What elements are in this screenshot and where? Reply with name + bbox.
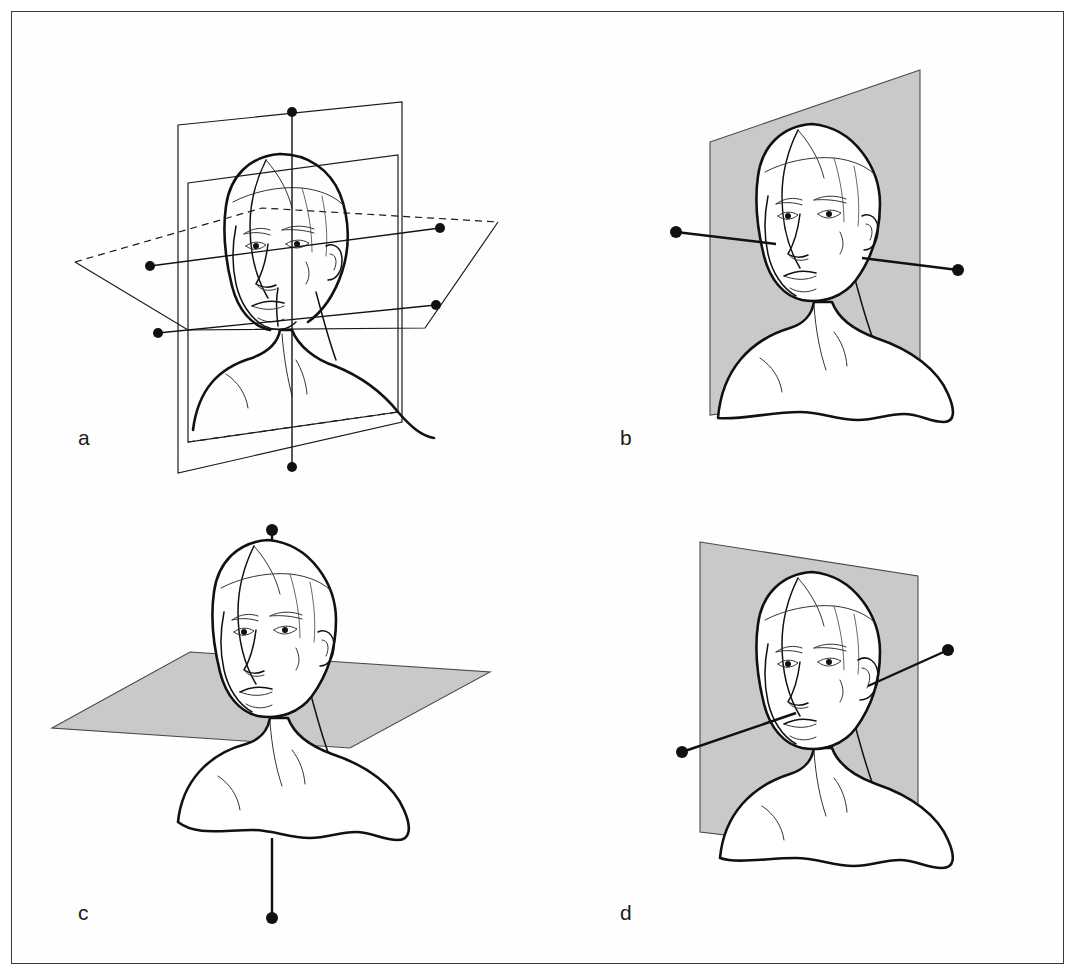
panel-b (600, 40, 1050, 480)
coronal-plane-a (178, 102, 402, 473)
axis-endpoint-dot (266, 524, 278, 536)
panel-d (600, 510, 1050, 950)
panel-b-drawing (600, 40, 1050, 480)
panel-c-drawing (30, 500, 550, 950)
vertical-axis-a (287, 107, 297, 472)
axis-endpoint-dot (435, 223, 445, 233)
axis-endpoint-dot (676, 746, 688, 758)
sagittal-plane-a (188, 155, 398, 442)
axis-endpoint-dot (431, 300, 441, 310)
axis-endpoint-dot (266, 912, 278, 924)
axis-endpoint-dot (942, 644, 954, 656)
vertical-axis-c-bottom (266, 838, 278, 924)
axis-endpoint-dot (287, 462, 297, 472)
panel-a-drawing (30, 30, 550, 480)
panel-label-a: a (78, 427, 90, 448)
panel-a (30, 30, 550, 480)
panel-label-b: b (620, 427, 632, 448)
axis-endpoint-dot (153, 328, 163, 338)
axis-endpoint-dot (145, 261, 155, 271)
panel-label-d: d (620, 902, 632, 923)
figure-root: a (0, 0, 1075, 977)
panel-label-c: c (78, 902, 89, 923)
transverse-axis-a (145, 223, 445, 271)
transverse-plane-a (75, 208, 498, 330)
axis-endpoint-dot (287, 107, 297, 117)
axis-endpoint-dot (952, 264, 964, 276)
axis-endpoint-dot (670, 226, 682, 238)
panel-d-drawing (600, 510, 1050, 950)
panel-c (30, 500, 550, 950)
